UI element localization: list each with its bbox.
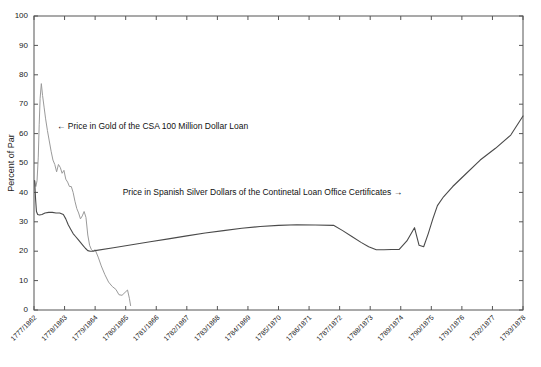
y-tick-label-50: 50 [19,158,28,167]
x-tick-label-7: 1784/1869 [223,314,251,342]
x-tick-label-1: 1778/1863 [40,314,68,342]
x-tick-label-5: 1782/1867 [162,314,190,342]
y-tick-label-40: 40 [19,188,28,197]
x-tick-label-3: 1780/1865 [101,314,129,342]
x-tick-label-10: 1787/1872 [315,314,343,342]
x-tick-label-9: 1786/1871 [284,314,312,342]
y-tick-label-60: 60 [19,129,28,138]
y-tick-label-10: 10 [19,276,28,285]
y-tick-label-70: 70 [19,99,28,108]
series-line-csa_gold [35,84,131,306]
y-tick-label-30: 30 [19,217,28,226]
series-line-continental_silver [35,116,523,251]
x-tick-label-8: 1785/1870 [254,314,282,342]
y-tick-label-100: 100 [15,11,29,20]
x-tick-label-11: 1788/1873 [346,314,374,342]
x-tick-label-14: 1791/1876 [437,314,465,342]
x-tick-label-16: 1793/1878 [498,314,526,342]
line-chart: 0102030405060708090100Percent of Par1777… [0,0,541,367]
y-tick-label-20: 20 [19,246,28,255]
y-axis-title: Percent of Par [6,134,16,192]
x-tick-label-13: 1790/1875 [407,314,435,342]
chart-container: 0102030405060708090100Percent of Par1777… [0,0,541,367]
x-tick-label-4: 1781/1866 [132,314,160,342]
y-tick-label-90: 90 [19,41,28,50]
x-tick-label-6: 1783/1868 [193,314,221,342]
x-tick-label-12: 1789/1874 [376,314,404,342]
plot-frame [34,16,523,310]
x-tick-label-2: 1779/1864 [70,314,98,342]
csa-annotation: ← Price in Gold of the CSA 100 Million D… [57,121,249,131]
continental-annotation: Price in Spanish Silver Dollars of the C… [123,187,403,197]
y-tick-label-0: 0 [24,305,29,314]
x-tick-label-0: 1777/1862 [9,314,37,342]
x-tick-label-15: 1792/1877 [468,314,496,342]
y-tick-label-80: 80 [19,70,28,79]
